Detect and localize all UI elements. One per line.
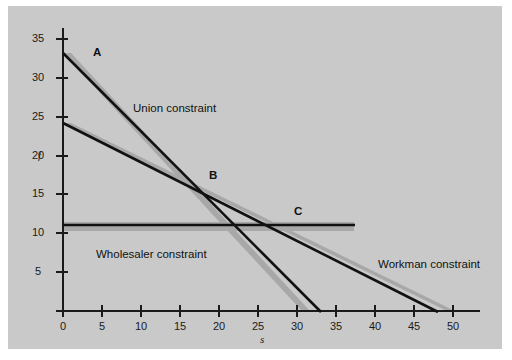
y-tick-label-25: 25 bbox=[26, 110, 50, 122]
x-tick-label-35: 35 bbox=[324, 320, 348, 332]
x-tick-label-5: 5 bbox=[90, 320, 114, 332]
chart-figure: f s 35 30 25 20 15 10 5 0 5 10 15 20 25 … bbox=[8, 6, 502, 349]
x-tick-label-25: 25 bbox=[246, 320, 270, 332]
x-tick-label-15: 15 bbox=[168, 320, 192, 332]
series-label-wholesaler-constraint: Wholesaler constraint bbox=[96, 248, 207, 260]
y-tick-label-10: 10 bbox=[26, 226, 50, 238]
y-tick-label-30: 30 bbox=[26, 71, 50, 83]
y-tick-label-15: 15 bbox=[26, 187, 50, 199]
shadow-layer bbox=[63, 53, 455, 311]
union-constraint-line bbox=[63, 53, 321, 312]
y-tick-label-20: 20 bbox=[26, 149, 50, 161]
x-tick-label-30: 30 bbox=[285, 320, 309, 332]
point-label-c: C bbox=[294, 205, 302, 217]
chart-plot-svg bbox=[8, 6, 502, 349]
y-tick-label-35: 35 bbox=[26, 32, 50, 44]
workman-constraint-line bbox=[63, 123, 438, 312]
point-label-b: B bbox=[209, 169, 217, 181]
wholesaler-constraint-shadow bbox=[63, 222, 354, 231]
x-tick-label-45: 45 bbox=[402, 320, 426, 332]
x-tick-label-40: 40 bbox=[363, 320, 387, 332]
x-tick-label-50: 50 bbox=[441, 320, 465, 332]
series-label-union-constraint: Union constraint bbox=[133, 102, 216, 114]
x-tick-label-0: 0 bbox=[51, 320, 75, 332]
x-axis-title: s bbox=[260, 333, 264, 345]
series-label-workman-constraint: Workman constraint bbox=[378, 258, 480, 270]
y-tick-label-5: 5 bbox=[26, 265, 50, 277]
point-label-a: A bbox=[93, 46, 101, 58]
x-tick-label-20: 20 bbox=[207, 320, 231, 332]
x-tick-label-10: 10 bbox=[129, 320, 153, 332]
